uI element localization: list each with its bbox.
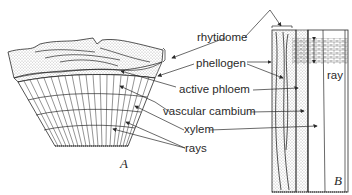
panel-b-section	[272, 26, 348, 192]
bark-diagram	[0, 0, 352, 195]
label-vascular-cambium: vascular cambium	[163, 106, 256, 118]
panel-label-b: B	[334, 173, 342, 189]
panel-a-wedge	[8, 38, 163, 146]
label-active-phloem: active phloem	[179, 84, 250, 96]
label-xylem: xylem	[184, 124, 214, 136]
label-phellogen: phellogen	[196, 58, 246, 70]
panel-label-a: A	[120, 156, 128, 172]
label-ray: ray	[326, 70, 344, 82]
label-rays: rays	[185, 143, 207, 155]
label-rhytidome: rhytidome	[197, 32, 248, 44]
